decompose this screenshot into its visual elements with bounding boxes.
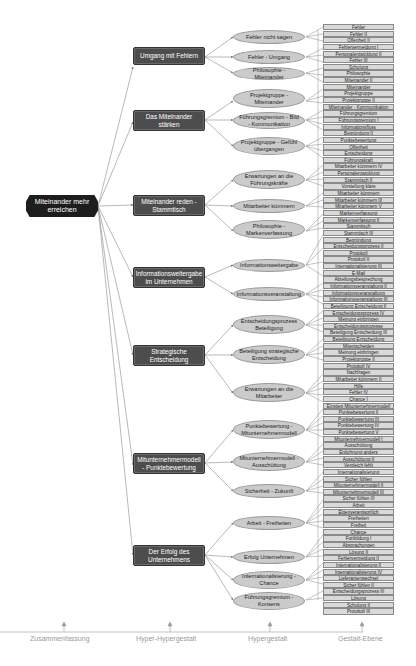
gestalt-item[interactable]: Einstieg Mitunternehmermodell — [323, 403, 394, 409]
hypergestalt-node[interactable]: Führungsgremium - Bild - Kommunikation — [233, 112, 305, 129]
hypergestalt-node[interactable]: Erwartungen an die Führungskräfte — [233, 170, 305, 189]
gestalt-item[interactable]: Personalentwicklung II — [323, 51, 394, 57]
hypergestalt-node[interactable]: Internationalisierung - Chance — [233, 571, 305, 589]
gestalt-item[interactable]: Mitarbeiter kümmern IV — [323, 163, 394, 169]
gestalt-item[interactable]: Informationsveranstaltung III — [323, 296, 394, 302]
gestalt-item[interactable]: Beteiligung Entscheidung III — [323, 329, 394, 335]
gestalt-item[interactable]: Punktebewertung V — [323, 429, 394, 435]
hypergestalt-node[interactable]: Arbeit - Freiheiten — [233, 516, 305, 530]
hyper-hyper-node[interactable]: Umgang mit Fehlern — [133, 47, 205, 65]
gestalt-item[interactable]: Internationalisierung II — [323, 562, 394, 568]
hypergestalt-node[interactable]: Sicherheit - Zukunft — [233, 484, 305, 498]
gestalt-item[interactable]: Freiheit — [323, 522, 394, 528]
gestalt-item[interactable]: Ausschüttung — [323, 442, 394, 448]
hypergestalt-node[interactable]: Mitarbeiter kümmern — [233, 199, 305, 213]
hyper-hyper-node[interactable]: Mitunternehmermodell - Punktebewertung — [133, 453, 205, 474]
hypergestalt-node[interactable]: Beteiligung strategische Entscheidung — [233, 345, 305, 364]
gestalt-item[interactable]: Entscheidungsprozess II — [323, 243, 394, 249]
gestalt-item[interactable]: Internationalisierung IV — [323, 569, 394, 575]
gestalt-item[interactable]: Eigenverantwortlich — [323, 509, 394, 515]
hyper-hyper-node[interactable]: Strategische Entscheidung — [133, 345, 205, 366]
hypergestalt-node[interactable]: Fehler - Umgang — [233, 50, 305, 64]
gestalt-item[interactable]: Offenheit II — [323, 37, 394, 43]
gestalt-item[interactable]: Mitunternehmermodell II — [323, 482, 394, 488]
hypergestalt-node[interactable]: Philosophie - Miteinander — [233, 67, 305, 80]
gestalt-item[interactable]: Entlohnung anders — [323, 449, 394, 455]
gestalt-item[interactable]: Entscheidungsprozess III — [323, 588, 394, 594]
hypergestalt-node[interactable]: Philosophie - Markenverfassung — [233, 220, 305, 239]
gestalt-item[interactable]: Miteinander — [323, 84, 394, 90]
gestalt-item[interactable]: Entscheidungsprozesse — [323, 323, 394, 329]
hypergestalt-node[interactable]: Projektgruppe - Miteinander — [233, 89, 305, 108]
gestalt-item[interactable]: Offenheit — [323, 144, 394, 150]
hyper-hyper-node[interactable]: Miteinander reden - Stammtisch — [133, 195, 205, 216]
gestalt-item[interactable]: Informationsfluss — [323, 124, 394, 130]
gestalt-item[interactable]: Begründung — [323, 237, 394, 243]
gestalt-item[interactable]: Projektgruppe II — [323, 356, 394, 362]
gestalt-item[interactable]: Punktebewertung — [323, 137, 394, 143]
gestalt-item[interactable]: Projektgruppe — [323, 90, 394, 96]
gestalt-item[interactable]: Vorstellung klare — [323, 183, 394, 189]
hypergestalt-node[interactable]: Erwartungen an die Mitarbeiter — [233, 383, 305, 402]
hypergestalt-node[interactable]: Informationsweitergabe — [233, 259, 305, 272]
gestalt-item[interactable]: Mitarbeiter kümmern V — [323, 203, 394, 209]
hypergestalt-node[interactable]: Erfolg Unternehmen — [233, 550, 305, 564]
gestalt-item[interactable]: Internationalisierung — [323, 469, 394, 475]
hypergestalt-node[interactable]: Projektgruppe - Gefühl übergangen — [233, 137, 305, 155]
gestalt-item[interactable]: Nachfragen — [323, 369, 394, 375]
gestalt-item[interactable]: Lösung II — [323, 549, 394, 555]
gestalt-item[interactable]: Mitunternehmermodell I — [323, 436, 394, 442]
gestalt-item[interactable]: Punktebewertung III — [323, 416, 394, 422]
gestalt-item[interactable]: Absprachungen — [323, 542, 394, 548]
gestalt-item[interactable]: Stammtisch III — [323, 230, 394, 236]
gestalt-item[interactable]: Mitentscheiden — [323, 343, 394, 349]
gestalt-item[interactable]: Freiheiten — [323, 515, 394, 521]
gestalt-item[interactable]: Fehlervermeidung II — [323, 555, 394, 561]
gestalt-item[interactable]: Führungskraft — [323, 157, 394, 163]
gestalt-item[interactable]: Miteinander - Kommunikation — [323, 104, 394, 110]
hypergestalt-node[interactable]: Entscheidungsprozess Beteiligung — [233, 315, 305, 334]
gestalt-item[interactable]: Fehler III — [323, 57, 394, 63]
root-node[interactable]: Miteinander mehr erreichen — [26, 195, 98, 217]
gestalt-item[interactable]: Chance — [323, 529, 394, 535]
gestalt-item[interactable]: Fehlervermeidung I — [323, 44, 394, 50]
hyper-hyper-node[interactable]: Das Miteinander stärken — [133, 110, 205, 131]
gestalt-item[interactable]: Meinung einbringen — [323, 316, 394, 322]
gestalt-item[interactable]: Beteiligung Entscheidung — [323, 336, 394, 342]
gestalt-item[interactable]: Lösung — [323, 595, 394, 601]
gestalt-item[interactable]: Ausschüttung II — [323, 456, 394, 462]
gestalt-item[interactable]: Stammtisch II — [323, 177, 394, 183]
gestalt-item[interactable]: Lieferantenwechsel — [323, 575, 394, 581]
hypergestalt-node[interactable]: Führungsgremium - Konsens — [233, 592, 305, 610]
gestalt-item[interactable]: Beteiligung Entscheidung II — [323, 303, 394, 309]
gestalt-item[interactable]: Protokoll IV — [323, 363, 394, 369]
gestalt-item[interactable]: Mitunternehmermodell III — [323, 489, 394, 495]
gestalt-item[interactable]: Führungsgremium I — [323, 117, 394, 123]
gestalt-item[interactable]: Fehler — [323, 24, 394, 30]
gestalt-item[interactable]: Markenverfassung II — [323, 217, 394, 223]
gestalt-item[interactable]: Mitarbeiter kümmern III — [323, 197, 394, 203]
gestalt-item[interactable]: Informationsveranstaltung — [323, 290, 394, 296]
gestalt-item[interactable]: Protokoll II — [323, 256, 394, 262]
hypergestalt-node[interactable]: Informationsveranstaltung — [233, 287, 305, 301]
gestalt-item[interactable]: Abteilungsbesprechung — [323, 276, 394, 282]
gestalt-item[interactable]: Markenverfassung — [323, 210, 394, 216]
gestalt-item[interactable]: Fehler IV — [323, 389, 394, 395]
gestalt-item[interactable]: Vergleich fehlt — [323, 462, 394, 468]
gestalt-item[interactable]: Fortbildung I — [323, 535, 394, 541]
gestalt-item[interactable]: Fehler II — [323, 31, 394, 37]
gestalt-item[interactable]: Sicher fühlen III — [323, 495, 394, 501]
gestalt-item[interactable]: Mitarbeiter kümmern — [323, 190, 394, 196]
gestalt-item[interactable]: Begründung II — [323, 130, 394, 136]
gestalt-item[interactable]: E-Mail — [323, 270, 394, 276]
gestalt-item[interactable]: Schulung II — [323, 602, 394, 608]
gestalt-item[interactable]: Sicher fühlen II — [323, 582, 394, 588]
gestalt-item[interactable]: Miteinander II — [323, 77, 394, 83]
gestalt-item[interactable]: Entscheidung — [323, 150, 394, 156]
gestalt-item[interactable]: Punktebewertung II — [323, 409, 394, 415]
gestalt-item[interactable]: Meinung einbringen — [323, 349, 394, 355]
gestalt-item[interactable]: Schulung — [323, 64, 394, 70]
gestalt-item[interactable]: Personalentwicklung — [323, 170, 394, 176]
gestalt-item[interactable]: Entscheidungsprozess IV — [323, 310, 394, 316]
gestalt-item[interactable]: Sicher fühlen — [323, 476, 394, 482]
